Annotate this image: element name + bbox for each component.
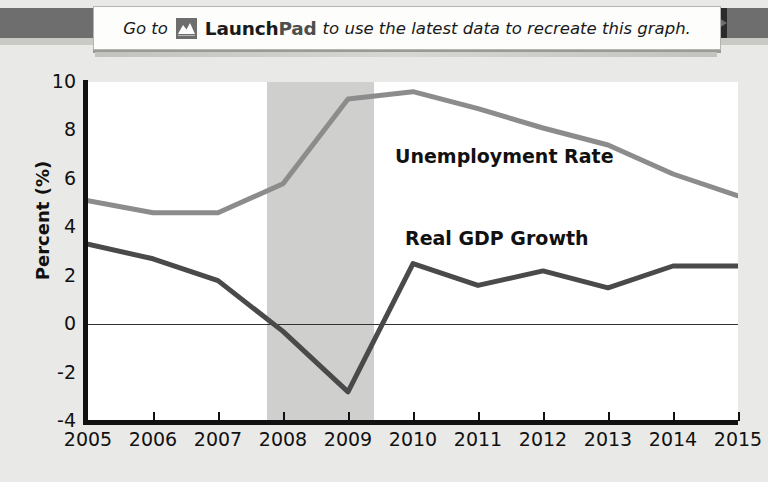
x-axis-tick: [348, 412, 350, 421]
y-tick-label: 8: [28, 118, 76, 140]
x-tick-label: 2008: [248, 428, 318, 450]
x-tick-label: 2014: [638, 428, 708, 450]
launchpad-banner: Go to LaunchPad to use the latest data t…: [0, 0, 768, 60]
x-axis-tick: [608, 412, 610, 421]
banner-text-before: Go to: [123, 19, 168, 38]
banner-box: Go to LaunchPad to use the latest data t…: [93, 6, 721, 50]
brand-pad: Pad: [278, 18, 316, 39]
y-axis-line: [83, 80, 88, 425]
y-tick-label: 2: [28, 264, 76, 286]
series-line-real-gdp-growth: [88, 244, 738, 392]
x-tick-label: 2010: [378, 428, 448, 450]
x-axis-tick: [738, 412, 740, 421]
x-tick-label: 2009: [313, 428, 383, 450]
series-label-real-gdp-growth: Real GDP Growth: [405, 227, 589, 249]
x-axis-tick: [218, 412, 220, 421]
y-tick-label: 4: [28, 215, 76, 237]
x-tick-label: 2011: [443, 428, 513, 450]
chart-area: Percent (%) Unemployment Rate Real GDP G…: [0, 60, 768, 482]
x-tick-label: 2012: [508, 428, 578, 450]
y-tick-label: 6: [28, 167, 76, 189]
series-lines: [88, 82, 738, 421]
brand-launch: Launch: [205, 18, 279, 39]
x-axis-tick: [673, 412, 675, 421]
banner-text: Go to LaunchPad to use the latest data t…: [123, 18, 691, 39]
x-tick-label: 2013: [573, 428, 643, 450]
series-label-unemployment-rate: Unemployment Rate: [395, 145, 614, 167]
banner-text-after: to use the latest data to recreate this …: [323, 19, 691, 38]
x-axis-line: [83, 420, 738, 425]
x-axis-tick: [543, 412, 545, 421]
x-axis-tick: [153, 412, 155, 421]
x-tick-label: 2007: [183, 428, 253, 450]
y-tick-label: 0: [28, 312, 76, 334]
x-tick-label: 2015: [703, 428, 768, 450]
launchpad-brand: LaunchPad: [205, 18, 317, 39]
x-tick-label: 2006: [118, 428, 188, 450]
x-axis-tick: [413, 412, 415, 421]
banner-underbar: [95, 52, 717, 57]
x-axis-tick: [478, 412, 480, 421]
y-tick-label: 10: [28, 70, 76, 92]
x-tick-label: 2005: [53, 428, 123, 450]
x-axis-tick: [283, 412, 285, 421]
launchpad-mountain-icon: [176, 18, 197, 39]
y-tick-label: -2: [28, 361, 76, 383]
plot-area: Unemployment Rate Real GDP Growth: [88, 82, 738, 421]
